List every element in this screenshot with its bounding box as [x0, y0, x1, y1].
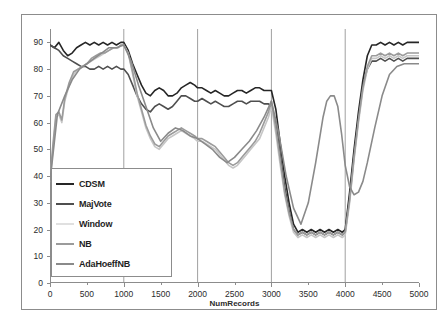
y-tick-label: 10	[17, 252, 43, 260]
legend-item-label: NB	[79, 239, 92, 249]
x-tick-label: 1500	[141, 290, 181, 298]
legend-item-adahoeffnb[interactable]: AdaHoeffNB	[56, 254, 130, 274]
x-tick-mark	[87, 283, 88, 285]
x-tick-label: 0	[30, 290, 70, 298]
legend-item-label: CDSM	[79, 179, 105, 189]
x-tick-mark	[235, 283, 236, 285]
y-tick-label: 80	[17, 65, 43, 73]
x-tick-mark	[382, 283, 383, 285]
y-tick-label: 60	[17, 119, 43, 127]
x-tick-label: 500	[67, 290, 107, 298]
x-tick-label: 3000	[251, 290, 291, 298]
x-tick-mark	[124, 283, 125, 287]
legend-item-label: MajVote	[79, 199, 111, 209]
x-tick-label: 1000	[104, 290, 144, 298]
x-tick-mark	[271, 283, 272, 287]
legend-swatch-icon	[56, 183, 74, 185]
legend-swatch-icon	[56, 223, 74, 225]
x-tick-label: 2500	[215, 290, 255, 298]
x-tick-mark	[50, 283, 51, 287]
legend-swatch-icon	[56, 263, 74, 265]
legend-swatch-icon	[56, 243, 74, 245]
y-tick-label: 70	[17, 92, 43, 100]
y-tick-label: 40	[17, 172, 43, 180]
legend-item-cdsm[interactable]: CDSM	[56, 174, 105, 194]
y-tick-label: 90	[17, 38, 43, 46]
x-tick-label: 5000	[399, 290, 439, 298]
legend-item-label: AdaHoeffNB	[79, 259, 130, 269]
legend-item-nb[interactable]: NB	[56, 234, 92, 254]
x-tick-mark	[345, 283, 346, 287]
legend-item-window[interactable]: Window	[56, 214, 112, 234]
x-tick-label: 4000	[325, 290, 365, 298]
y-tick-label: 50	[17, 145, 43, 153]
x-tick-label: 3500	[288, 290, 328, 298]
y-tick-label: 20	[17, 226, 43, 234]
x-tick-mark	[308, 283, 309, 285]
x-tick-label: 2000	[178, 290, 218, 298]
x-tick-mark	[161, 283, 162, 285]
x-tick-label: 4500	[362, 290, 402, 298]
y-tick-label: 0	[17, 279, 43, 287]
legend-swatch-icon	[56, 203, 74, 205]
legend-item-label: Window	[79, 219, 112, 229]
chart-figure: Accuracy(%) 0102030405060708090 05001000…	[0, 0, 446, 332]
x-axis-label: NumRecords	[50, 299, 419, 308]
legend-item-majvote[interactable]: MajVote	[56, 194, 111, 214]
x-tick-mark	[419, 283, 420, 287]
x-tick-mark	[198, 283, 199, 287]
y-tick-label: 30	[17, 199, 43, 207]
chart-legend: CDSMMajVoteWindowNBAdaHoeffNB	[51, 168, 172, 277]
